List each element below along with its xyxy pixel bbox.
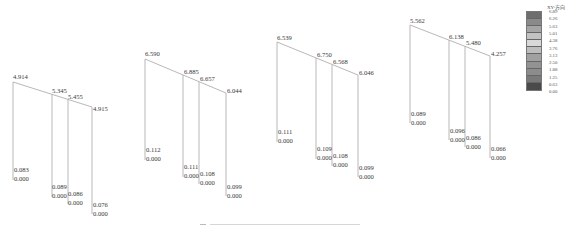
frame-4-col-2-base: 0.000 [450, 136, 465, 143]
legend-value: 0.63 [549, 82, 557, 87]
frame-4-top-value-4: 4.257 [491, 50, 506, 57]
legend-value: 3.13 [549, 53, 557, 58]
frame-2-col-3-value: 0.108 [200, 170, 215, 177]
frame-3-col-1-value: 0.111 [278, 128, 292, 135]
legend-band [527, 19, 541, 26]
figure-caption-cropped [200, 220, 370, 226]
legend-value: 4.38 [549, 38, 557, 43]
frame-3-col-3-value: 0.108 [333, 152, 348, 159]
frame-4-top-value-1: 5.562 [410, 17, 425, 24]
legend-band [527, 47, 541, 54]
frame-3-top-value-1: 6.539 [277, 34, 292, 41]
legend-band [527, 62, 541, 69]
legend-band [527, 83, 541, 90]
frame-4-top-value-3: 5.480 [466, 39, 481, 46]
frame-2-col-4-value: 0.099 [227, 183, 242, 190]
frame-3-col-2-base: 0.000 [317, 154, 332, 161]
frame-2-col-3-base: 0.000 [200, 179, 215, 186]
legend-value: 5.63 [549, 24, 557, 29]
legend-color-bar [526, 11, 542, 91]
legend-value: 1.88 [549, 67, 557, 72]
frame-2-top-value-1: 6.590 [145, 50, 160, 57]
legend-band [527, 40, 541, 47]
legend-band [527, 33, 541, 40]
frame-3-col-4-value: 0.099 [359, 164, 374, 171]
legend-value: 1.25 [549, 75, 557, 80]
frame-4-col-1-base: 0.000 [411, 119, 426, 126]
caption-strip [200, 220, 370, 226]
legend-value: 5.01 [549, 31, 557, 36]
frame-3-top-value-4: 6.046 [359, 69, 374, 76]
frame-4-col-3-base: 0.000 [466, 143, 481, 150]
frame-3-top-value-2: 6.750 [317, 51, 332, 58]
frame-1-top-value-2: 5.345 [52, 87, 67, 94]
frame-4-col-4-value: 0.066 [491, 145, 506, 152]
frame-1-col-2-base: 0.000 [52, 192, 67, 199]
frame-1-top-value-1: 4.914 [13, 73, 28, 80]
frame-1-col-1-value: 0.083 [14, 166, 29, 173]
frame-2-col-4-base: 0.000 [227, 192, 242, 199]
frame-1-col-1-base: 0.000 [14, 175, 29, 182]
frame-1-top-value-3: 5.455 [68, 93, 83, 100]
frame-3-col-1-base: 0.000 [278, 137, 293, 144]
color-legend: XY-方向 6.89 6.26 5.63 5.01 4.38 3.76 3.13… [525, 3, 569, 95]
frame-2-col-2-value: 0.111 [184, 163, 198, 170]
frame-4-col-1-value: 0.089 [411, 110, 426, 117]
frame-3-col-2-value: 0.109 [317, 145, 332, 152]
frame-1-col-4-value: 0.076 [93, 201, 108, 208]
frame-4-col-2-value: 0.096 [450, 127, 465, 134]
frame-1-top-value-4: 4.915 [93, 105, 108, 112]
frame-3-col-4-base: 0.000 [359, 173, 374, 180]
legend-band [527, 54, 541, 61]
frame-2-col-1-base: 0.000 [146, 155, 161, 162]
frame-4-col-3-value: 0.086 [466, 134, 481, 141]
legend-value: 0.00 [549, 89, 557, 94]
frame-3-top-value-3: 6.568 [333, 58, 348, 65]
frame-2-col-2-base: 0.000 [184, 172, 199, 179]
frame-1-col-2-value: 0.089 [52, 183, 67, 190]
frame-1-col-4-base: 0.000 [93, 210, 108, 217]
frame-2-top-value-3: 6.657 [200, 75, 215, 82]
frame-2-col-1-value: 0.112 [146, 146, 161, 153]
frame-2-top-value-4: 6.044 [227, 87, 242, 94]
legend-band [527, 26, 541, 33]
frame-2-top-value-2: 6.885 [184, 68, 199, 75]
legend-band [527, 76, 541, 83]
frame-3-col-3-base: 0.000 [333, 161, 348, 168]
legend-band [527, 12, 541, 19]
frame-1-col-3-value: 0.086 [68, 190, 83, 197]
frame-4-top-value-2: 6.138 [449, 33, 464, 40]
frame-4-col-4-base: 0.000 [491, 154, 506, 161]
legend-value: 2.50 [549, 60, 557, 65]
legend-value: 3.76 [549, 46, 557, 51]
legend-value: 6.89 [549, 9, 557, 14]
frame-1-col-3-base: 0.000 [68, 199, 83, 206]
legend-band [527, 69, 541, 76]
legend-value: 6.26 [549, 16, 557, 21]
